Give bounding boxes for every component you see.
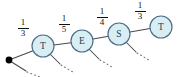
fraction-denominator: 4: [94, 18, 110, 28]
weighted-path-diagram: T E S T 1 3 1 5 1 4 1 3: [0, 0, 180, 77]
node-label: T: [158, 22, 164, 32]
origin-dot: [6, 57, 13, 64]
edge-node2-to-node3: [93, 36, 109, 39]
node-label: E: [79, 36, 85, 46]
branch-stub-node2: [89, 49, 99, 59]
branch-stub-origin: [10, 61, 26, 71]
edge-origin-to-node1: [9, 51, 33, 60]
node-label: S: [116, 29, 121, 39]
node-t-4[interactable]: T: [150, 16, 172, 38]
node-e-2[interactable]: E: [71, 30, 93, 52]
edge-node3-to-node4: [130, 29, 150, 33]
fraction-denominator: 3: [132, 12, 148, 22]
edge-weight-3: 1 4: [94, 7, 110, 27]
fraction-denominator: 5: [56, 25, 72, 35]
node-s-3[interactable]: S: [108, 23, 130, 45]
fraction-numerator: 1: [15, 18, 31, 28]
fraction-numerator: 1: [56, 14, 72, 24]
node-t-1[interactable]: T: [32, 35, 54, 57]
fraction-numerator: 1: [132, 1, 148, 11]
edge-weight-2: 1 5: [56, 14, 72, 34]
branch-stub-node1: [50, 54, 60, 64]
edge-weight-1: 1 3: [15, 18, 31, 38]
node-label: T: [40, 41, 46, 51]
fraction-denominator: 3: [15, 29, 31, 39]
edge-node1-to-node2: [54, 43, 71, 45]
fraction-numerator: 1: [94, 7, 110, 17]
branch-stub-node3: [126, 42, 136, 52]
branch-dots-node2: [100, 60, 112, 67]
branch-dots-node1: [61, 65, 73, 72]
diagram-canvas: T E S T: [0, 0, 180, 77]
branch-dots-node3: [137, 53, 149, 60]
edge-weight-4: 1 3: [132, 1, 148, 21]
branch-dots-origin: [27, 72, 40, 77]
